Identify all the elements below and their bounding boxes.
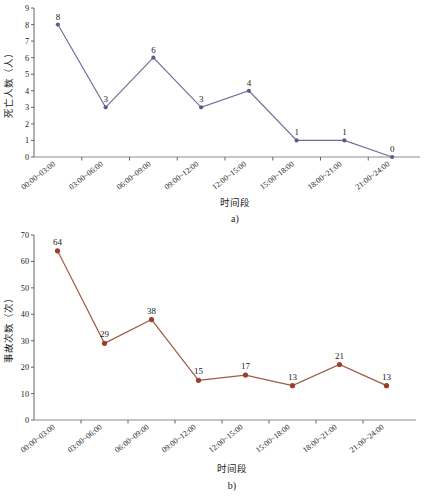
data-point-label-0-2: 6 [151, 45, 156, 55]
x-tick-label-1-5: 15:00~18:00 [254, 422, 292, 454]
data-point-label-1-2: 38 [147, 306, 157, 316]
data-point-1-7[interactable] [384, 383, 389, 388]
y-tick-label-0-0: 0 [25, 153, 29, 162]
x-tick-label-0-3: 09:00~12:00 [163, 159, 201, 191]
x-tick-label-0-4: 12:00~15:00 [210, 159, 248, 191]
x-tick-label-group-1-4: 12:00~15:00 [207, 422, 245, 454]
chart-a-canvas: 012345678900:00~03:0003:00~06:0006:00~09… [0, 0, 428, 228]
y-axis-title-0: 死亡人数（人） [3, 48, 14, 118]
chart-b-canvas: 01020304050607000:00~03:0003:00~06:0006:… [0, 225, 428, 498]
data-point-label-1-5: 13 [288, 372, 298, 382]
x-tick-label-group-0-6: 18:00~21:00 [306, 159, 344, 191]
y-axis-title-1: 事故次数（次） [3, 293, 14, 363]
data-point-label-1-0: 64 [53, 237, 63, 247]
data-point-0-3[interactable] [199, 105, 203, 109]
x-tick-label-1-7: 21:00~24:00 [348, 422, 386, 454]
x-tick-label-group-1-1: 03:00~06:00 [66, 422, 104, 454]
y-tick-label-1-6: 60 [21, 257, 29, 266]
y-axis-title-group-0: 死亡人数（人） [3, 48, 14, 118]
data-point-label-0-0: 8 [56, 12, 61, 22]
data-point-label-1-3: 15 [194, 366, 204, 376]
data-point-1-1[interactable] [102, 341, 107, 346]
x-tick-label-0-1: 03:00~06:00 [67, 159, 105, 191]
x-tick-label-1-4: 12:00~15:00 [207, 422, 245, 454]
y-tick-label-0-8: 8 [25, 21, 29, 30]
figure-b-accident-count-line-chart: 01020304050607000:00~03:0003:00~06:0006:… [0, 225, 428, 498]
x-tick-label-group-1-2: 06:00~09:00 [113, 422, 151, 454]
x-tick-label-0-6: 18:00~21:00 [306, 159, 344, 191]
data-point-0-1[interactable] [104, 105, 108, 109]
y-tick-label-1-7: 70 [21, 231, 29, 240]
y-axis-title-group-1: 事故次数（次） [3, 293, 14, 363]
x-tick-label-0-5: 15:00~18:00 [258, 159, 296, 191]
x-axis-title-0: 时间段 [220, 197, 250, 208]
data-point-1-3[interactable] [196, 378, 201, 383]
data-point-1-2[interactable] [149, 317, 154, 322]
data-point-0-4[interactable] [247, 89, 251, 93]
data-point-1-5[interactable] [290, 383, 295, 388]
data-point-0-6[interactable] [342, 138, 346, 142]
x-tick-label-1-2: 06:00~09:00 [113, 422, 151, 454]
y-tick-label-0-7: 7 [25, 37, 29, 46]
x-tick-label-group-1-7: 21:00~24:00 [348, 422, 386, 454]
y-tick-label-0-3: 3 [25, 103, 29, 112]
data-point-1-6[interactable] [337, 362, 342, 367]
data-point-label-0-5: 1 [294, 127, 299, 137]
x-tick-label-group-1-6: 18:00~21:00 [301, 422, 339, 454]
x-tick-label-group-1-0: 00:00~03:00 [19, 422, 57, 454]
figure-caption-0: a) [231, 213, 239, 225]
data-point-0-0[interactable] [56, 22, 60, 26]
y-tick-label-0-4: 4 [25, 87, 29, 96]
x-axis-title-1: 时间段 [217, 463, 247, 474]
y-tick-label-0-6: 6 [25, 54, 29, 63]
data-point-label-1-6: 21 [335, 351, 344, 361]
data-point-1-0[interactable] [55, 248, 60, 253]
x-tick-label-group-0-4: 12:00~15:00 [210, 159, 248, 191]
data-point-0-2[interactable] [151, 56, 155, 60]
x-tick-label-group-0-0: 00:00~03:00 [19, 159, 57, 191]
data-point-label-1-7: 13 [382, 372, 392, 382]
y-tick-label-1-4: 40 [21, 310, 29, 319]
data-point-label-0-6: 1 [342, 127, 347, 137]
y-tick-label-0-1: 1 [25, 136, 29, 145]
x-tick-label-0-2: 06:00~09:00 [115, 159, 153, 191]
x-tick-label-1-3: 09:00~12:00 [160, 422, 198, 454]
y-tick-label-0-9: 9 [25, 4, 29, 13]
x-tick-label-group-1-3: 09:00~12:00 [160, 422, 198, 454]
y-tick-label-1-3: 30 [21, 337, 29, 346]
y-tick-label-1-0: 0 [25, 416, 29, 425]
data-point-label-1-1: 29 [100, 329, 110, 339]
x-tick-label-group-0-7: 21:00~24:00 [354, 159, 392, 191]
data-point-0-7[interactable] [390, 155, 394, 159]
data-point-label-0-3: 3 [199, 94, 204, 104]
y-tick-label-1-1: 10 [21, 390, 29, 399]
data-point-0-5[interactable] [295, 138, 299, 142]
x-tick-label-group-1-5: 15:00~18:00 [254, 422, 292, 454]
data-point-label-0-7: 0 [390, 144, 395, 154]
x-tick-label-group-0-1: 03:00~06:00 [67, 159, 105, 191]
y-tick-label-0-2: 2 [25, 120, 29, 129]
x-tick-label-group-0-2: 06:00~09:00 [115, 159, 153, 191]
x-tick-label-1-6: 18:00~21:00 [301, 422, 339, 454]
y-tick-label-1-2: 20 [21, 363, 29, 372]
figure-a-mortality-line-chart: 012345678900:00~03:0003:00~06:0006:00~09… [0, 0, 428, 228]
x-tick-label-1-0: 00:00~03:00 [19, 422, 57, 454]
data-point-1-4[interactable] [243, 372, 248, 377]
y-tick-label-1-5: 50 [21, 284, 29, 293]
x-tick-label-0-0: 00:00~03:00 [19, 159, 57, 191]
figure-caption-1: b) [228, 480, 236, 492]
y-tick-label-0-5: 5 [25, 70, 29, 79]
x-tick-label-group-0-5: 15:00~18:00 [258, 159, 296, 191]
data-point-label-0-4: 4 [247, 78, 252, 88]
x-tick-label-0-7: 21:00~24:00 [354, 159, 392, 191]
x-tick-label-group-0-3: 09:00~12:00 [163, 159, 201, 191]
data-point-label-0-1: 3 [103, 94, 108, 104]
data-point-label-1-4: 17 [241, 361, 251, 371]
x-tick-label-1-1: 03:00~06:00 [66, 422, 104, 454]
